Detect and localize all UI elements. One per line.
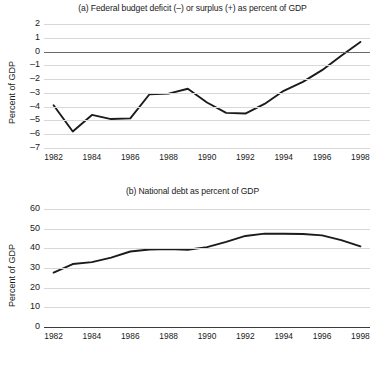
gridline--1 bbox=[44, 65, 370, 66]
chart-a-plot-area: 210–1–2–3–4–5–6–7 bbox=[44, 24, 370, 148]
y-tick-label: 60 bbox=[14, 203, 40, 213]
y-tick-label: 50 bbox=[14, 223, 40, 233]
y-tick-label: 10 bbox=[14, 301, 40, 311]
x-tick-label: 1998 bbox=[351, 152, 370, 162]
gridline--5 bbox=[44, 120, 370, 121]
chart-panel-a: (a) Federal budget deficit (–) or surplu… bbox=[0, 0, 385, 183]
gridline-10 bbox=[44, 307, 370, 308]
x-tick-label: 1982 bbox=[44, 331, 63, 341]
chart-a-title: (a) Federal budget deficit (–) or surplu… bbox=[0, 3, 385, 13]
chart-panel-b: (b) National debt as percent of GDP Perc… bbox=[0, 183, 385, 366]
y-tick-label: –6 bbox=[14, 128, 40, 138]
x-tick-label: 1988 bbox=[159, 152, 178, 162]
y-tick-label: –7 bbox=[14, 142, 40, 152]
gridline-30 bbox=[44, 268, 370, 269]
x-tick-label: 1996 bbox=[313, 152, 332, 162]
y-tick-label: 2 bbox=[14, 18, 40, 28]
x-tick-label: 1994 bbox=[274, 331, 293, 341]
gridline-60 bbox=[44, 209, 370, 210]
gridline-0 bbox=[44, 327, 370, 328]
gridline-40 bbox=[44, 248, 370, 249]
x-tick-label: 1986 bbox=[121, 331, 140, 341]
x-tick-label: 1984 bbox=[83, 331, 102, 341]
chart-a-series-line bbox=[44, 24, 370, 148]
gridline--3 bbox=[44, 93, 370, 94]
x-tick-label: 1996 bbox=[313, 331, 332, 341]
x-tick-label: 1992 bbox=[236, 152, 255, 162]
y-tick-label: –5 bbox=[14, 114, 40, 124]
gridline--7 bbox=[44, 148, 370, 149]
x-tick-label: 1988 bbox=[159, 331, 178, 341]
x-tick-label: 1990 bbox=[198, 152, 217, 162]
gridline-50 bbox=[44, 229, 370, 230]
x-tick-label: 1998 bbox=[351, 331, 370, 341]
gridline-20 bbox=[44, 288, 370, 289]
y-tick-label: 0 bbox=[14, 321, 40, 331]
gridline--6 bbox=[44, 134, 370, 135]
y-tick-label: –1 bbox=[14, 59, 40, 69]
y-tick-label: 20 bbox=[14, 282, 40, 292]
y-tick-label: 1 bbox=[14, 32, 40, 42]
y-tick-label: –4 bbox=[14, 101, 40, 111]
y-tick-label: 40 bbox=[14, 242, 40, 252]
x-tick-label: 1990 bbox=[198, 331, 217, 341]
chart-b-title: (b) National debt as percent of GDP bbox=[0, 186, 385, 196]
y-tick-label: 0 bbox=[14, 46, 40, 56]
figure-container: (a) Federal budget deficit (–) or surplu… bbox=[0, 0, 385, 366]
chart-b-plot-area: 6050403020100 bbox=[44, 209, 370, 327]
gridline-1 bbox=[44, 38, 370, 39]
gridline--4 bbox=[44, 107, 370, 108]
x-tick-label: 1982 bbox=[44, 152, 63, 162]
y-tick-label: –2 bbox=[14, 73, 40, 83]
y-tick-label: 30 bbox=[14, 262, 40, 272]
x-tick-label: 1984 bbox=[83, 152, 102, 162]
y-tick-label: –3 bbox=[14, 87, 40, 97]
gridline--2 bbox=[44, 79, 370, 80]
gridline-0 bbox=[44, 52, 370, 53]
gridline-2 bbox=[44, 24, 370, 25]
x-tick-label: 1986 bbox=[121, 152, 140, 162]
x-tick-label: 1992 bbox=[236, 331, 255, 341]
x-tick-label: 1994 bbox=[274, 152, 293, 162]
